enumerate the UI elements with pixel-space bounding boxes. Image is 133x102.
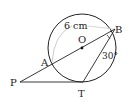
label-A: A [40,57,49,68]
radius-arc [52,26,72,62]
secant-PB [20,29,115,82]
label-T: T [78,88,85,99]
angle-label: 30° [102,51,118,61]
radius-label: 6 cm [64,20,87,31]
label-P: P [10,77,17,88]
angle-mark [107,35,110,39]
center-point [81,47,84,50]
label-O: O [78,34,86,45]
geometry-diagram: 6 cm O B A P T 30° [0,0,133,102]
label-B: B [115,24,122,35]
